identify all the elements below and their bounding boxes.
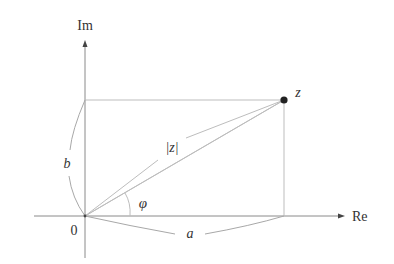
angle-label: φ (139, 195, 147, 211)
b-brace (69, 100, 85, 216)
imag-axis-label: Im (77, 18, 93, 33)
complex-plane-diagram: Im Re 0 z |z| φ b a (0, 0, 394, 264)
modulus-line-curve (85, 100, 284, 216)
angle-arc (125, 193, 130, 216)
origin-label: 0 (71, 223, 78, 238)
real-axis-arrow-icon (338, 214, 345, 219)
point-z-label: z (294, 85, 301, 100)
modulus-label: |z| (165, 140, 178, 155)
imaginary-axis-arrow-icon (83, 40, 88, 47)
point-z (280, 96, 287, 103)
real-part-label: a (187, 226, 194, 241)
origin-point (84, 215, 87, 218)
imag-part-label: b (64, 156, 71, 171)
a-brace (85, 216, 284, 234)
real-axis-label: Re (352, 209, 368, 224)
